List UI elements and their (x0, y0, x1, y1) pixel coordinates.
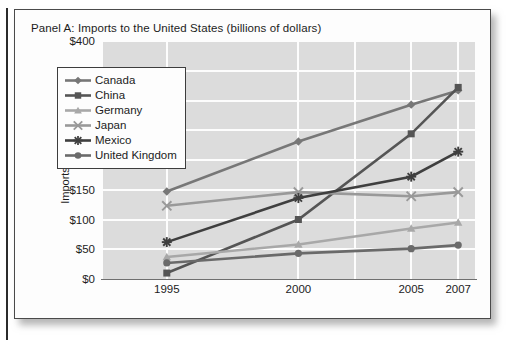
diamond-marker (407, 100, 415, 108)
figure-card: Panel A: Imports to the United States (b… (14, 9, 491, 319)
legend-swatch (64, 104, 92, 117)
legend-swatch (64, 89, 92, 102)
legend-item-mexico: Mexico (64, 133, 177, 148)
x-tick-label: 2005 (398, 283, 424, 295)
legend-label: Germany (95, 104, 142, 117)
diamond-marker (74, 77, 82, 85)
legend-label: China (95, 89, 125, 102)
x-axis-tick-labels: 1995200020052007 (101, 283, 477, 303)
legend-swatch (64, 119, 92, 132)
line-chart: Imports to the US (billions) $0$50$100$1… (31, 41, 477, 309)
y-tick-label: $0 (82, 273, 95, 285)
chart-legend: CanadaChinaGermanyJapanMexicoUnited King… (57, 67, 186, 169)
legend-label: United Kingdom (95, 149, 177, 162)
circle-marker (295, 250, 302, 257)
asterisk-marker (406, 172, 416, 182)
diamond-marker (294, 137, 302, 145)
legend-item-china: China (64, 88, 177, 103)
asterisk-marker (293, 193, 303, 203)
legend-swatch (64, 74, 92, 87)
y-tick-label: $50 (76, 243, 95, 255)
y-tick-label: $100 (69, 214, 95, 226)
series-canada (163, 86, 463, 196)
y-tick-label: $150 (69, 184, 95, 196)
y-tick-label: $400 (69, 35, 95, 47)
x-tick-label: 1995 (154, 283, 180, 295)
legend-label: Canada (95, 74, 135, 87)
panel-title: Panel A: Imports to the United States (b… (31, 22, 321, 34)
square-marker (295, 216, 302, 223)
legend-item-canada: Canada (64, 73, 177, 88)
circle-marker (408, 245, 415, 252)
x-tick-label: 2000 (286, 283, 312, 295)
series-japan (162, 188, 463, 211)
square-marker (455, 84, 462, 91)
legend-label: Japan (95, 119, 126, 132)
asterisk-marker (73, 136, 82, 145)
circle-marker (75, 152, 82, 159)
legend-swatch (64, 149, 92, 162)
asterisk-marker (453, 147, 463, 157)
asterisk-marker (162, 237, 172, 247)
diamond-marker (163, 187, 171, 195)
legend-item-germany: Germany (64, 103, 177, 118)
legend-item-japan: Japan (64, 118, 177, 133)
legend-item-united-kingdom: United Kingdom (64, 148, 177, 163)
x-tick-label: 2007 (445, 283, 471, 295)
circle-marker (163, 259, 170, 266)
square-marker (408, 130, 415, 137)
square-marker (163, 270, 170, 277)
page-gutter-rule (6, 8, 8, 340)
legend-swatch (64, 134, 92, 147)
square-marker (75, 92, 81, 98)
legend-label: Mexico (95, 134, 131, 147)
circle-marker (455, 241, 462, 248)
x-axis-line (101, 279, 477, 280)
